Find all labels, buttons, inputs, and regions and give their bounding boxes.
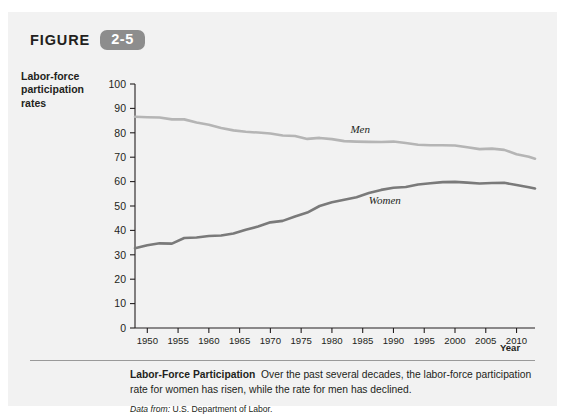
x-tick-label: 2005 xyxy=(475,335,496,346)
y-tick-label: 10 xyxy=(114,297,126,309)
x-tick-label: 1965 xyxy=(229,335,250,346)
x-tick-label: 1995 xyxy=(414,335,435,346)
figure-label: FIGURE xyxy=(30,32,90,48)
y-tick-label: 100 xyxy=(108,78,126,90)
caption-text: Labor-Force Participation Over the past … xyxy=(130,368,540,397)
x-tick-label: 1980 xyxy=(321,335,342,346)
caption-source: Data from: U.S. Department of Labor. xyxy=(130,404,540,414)
series-labels: MenWomen xyxy=(349,123,401,206)
x-tick-label: 1985 xyxy=(352,335,373,346)
x-tick-label: 1950 xyxy=(137,335,158,346)
figure-header: FIGURE 2-5 xyxy=(30,30,145,50)
y-tick-label: 20 xyxy=(114,273,126,285)
x-axis-title: Year xyxy=(500,342,520,353)
data-series xyxy=(135,117,535,249)
axis-lines xyxy=(135,84,535,328)
series-label-men: Men xyxy=(349,123,370,135)
y-tick-label: 40 xyxy=(114,224,126,236)
x-tick-label: 1955 xyxy=(167,335,188,346)
y-tick-label: 60 xyxy=(114,175,126,187)
caption-divider xyxy=(30,360,535,361)
y-tick-label: 30 xyxy=(114,249,126,261)
figure-panel: FIGURE 2-5 Labor-force participation rat… xyxy=(8,12,557,406)
x-axis-ticks: 1950195519601965197019751980198519901995… xyxy=(137,328,528,346)
y-tick-label: 0 xyxy=(120,322,126,334)
caption-title: Labor-Force Participation xyxy=(130,369,255,380)
series-line-women xyxy=(135,182,535,248)
line-chart: 0102030405060708090100 19501955196019651… xyxy=(8,56,557,356)
y-axis-ticks: 0102030405060708090100 xyxy=(108,78,135,334)
caption-source-label: Data from: xyxy=(130,404,170,414)
caption-source-text: U.S. Department of Labor. xyxy=(173,404,273,414)
y-tick-label: 50 xyxy=(114,200,126,212)
y-tick-label: 90 xyxy=(114,102,126,114)
figure-number-badge: 2-5 xyxy=(100,30,145,50)
x-tick-label: 1970 xyxy=(260,335,281,346)
caption-block: Labor-Force Participation Over the past … xyxy=(130,368,540,414)
y-tick-label: 80 xyxy=(114,127,126,139)
x-tick-label: 1975 xyxy=(290,335,311,346)
series-line-men xyxy=(135,117,535,159)
series-label-women: Women xyxy=(369,194,401,206)
chart-container: Labor-force participation rates 01020304… xyxy=(8,56,557,356)
x-tick-label: 1990 xyxy=(383,335,404,346)
y-tick-label: 70 xyxy=(114,151,126,163)
x-tick-label: 1960 xyxy=(198,335,219,346)
x-tick-label: 2000 xyxy=(444,335,465,346)
